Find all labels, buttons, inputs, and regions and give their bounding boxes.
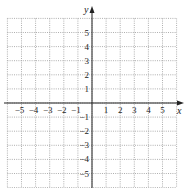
y-tick-label: 3 [85, 56, 90, 66]
y-axis-arrow-icon [90, 6, 95, 13]
y-tick-label: 5 [85, 28, 90, 38]
axes [4, 6, 184, 188]
x-tick-label: −5 [15, 105, 25, 115]
x-tick-label: 3 [132, 105, 137, 115]
y-tick-label: −2 [79, 126, 89, 136]
x-tick-label: −3 [43, 105, 53, 115]
coordinate-plane: −5−4−3−2−112345 54321−1−2−3−4−5 x y [0, 0, 185, 188]
x-tick-label: −2 [57, 105, 67, 115]
x-tick-label: 1 [104, 105, 109, 115]
y-axis-label: y [83, 4, 89, 15]
x-tick-label: 5 [160, 105, 165, 115]
y-tick-label: 2 [85, 70, 90, 80]
y-tick-label: −5 [79, 169, 89, 179]
x-tick-label: −4 [29, 105, 39, 115]
x-tick-label: 4 [146, 105, 151, 115]
y-tick-label: −1 [79, 112, 89, 122]
y-tick-label: 4 [85, 42, 90, 52]
y-tick-label: −3 [79, 140, 89, 150]
y-tick-label: 1 [85, 84, 90, 94]
x-axis-label: x [176, 105, 182, 116]
x-tick-labels: −5−4−3−2−112345 [15, 105, 166, 115]
x-tick-label: 2 [118, 105, 123, 115]
y-tick-label: −4 [79, 154, 89, 164]
